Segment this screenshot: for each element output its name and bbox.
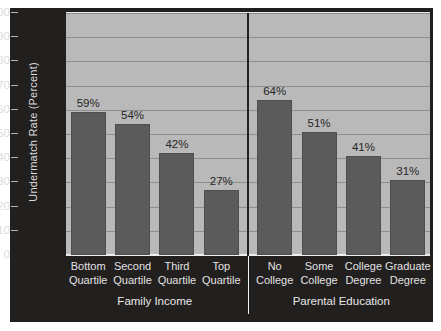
plot-area: 59%54%42%27%64%51%41%31%: [66, 12, 430, 256]
y-axis-tick-mark: [11, 36, 18, 37]
bar-value-label: 59%: [58, 97, 118, 109]
chart-panel: Undermatch Rate (Percent) 59%54%42%27%64…: [10, 8, 433, 322]
y-axis-tick-mark: [11, 157, 18, 158]
bar-value-label: 31%: [378, 165, 438, 177]
y-axis-tick-label: 30: [0, 175, 10, 187]
y-axis-tick-label: 0: [0, 248, 10, 260]
bar: [346, 156, 381, 255]
y-axis-tick-label: 80: [0, 54, 10, 66]
y-axis-tick-label: 90: [0, 30, 10, 42]
y-axis-tick-label: 70: [0, 79, 10, 91]
bar-value-label: 42%: [147, 138, 207, 150]
bar: [159, 153, 194, 255]
category-axis-area: BottomQuartileSecondQuartileThirdQuartil…: [66, 256, 430, 318]
bar-value-label: 64%: [245, 85, 305, 97]
y-axis-tick-mark: [11, 85, 18, 86]
group-title: Parental Education: [253, 295, 431, 307]
y-axis-tick-mark: [11, 133, 18, 134]
footer-group-divider: [248, 256, 249, 314]
y-axis-tick-mark: [11, 230, 18, 231]
bar: [302, 132, 337, 255]
bar: [257, 100, 292, 255]
bar-value-label: 54%: [103, 109, 163, 121]
y-axis-tick-label: 60: [0, 103, 10, 115]
category-label: GraduateDegree: [372, 260, 441, 287]
bar: [115, 124, 150, 255]
bar: [71, 112, 106, 255]
y-axis-tick-mark: [11, 12, 18, 13]
y-axis-tick-label: 50: [0, 127, 10, 139]
bar-value-label: 41%: [333, 141, 393, 153]
y-axis-tick-label: 20: [0, 200, 10, 212]
bar-value-label: 51%: [289, 117, 349, 129]
y-axis-tick-mark: [11, 60, 18, 61]
y-axis-tick-mark: [11, 206, 18, 207]
chart-figure: Undermatch Rate (Percent) 59%54%42%27%64…: [0, 0, 441, 331]
y-axis-tick-label: 100: [0, 6, 10, 18]
bar-value-label: 27%: [191, 175, 251, 187]
bar: [390, 180, 425, 255]
y-axis-tick-label: 40: [0, 151, 10, 163]
group-title: Family Income: [66, 295, 244, 307]
bar: [204, 190, 239, 255]
y-axis-tick-mark: [11, 109, 18, 110]
y-axis-title: Undermatch Rate (Percent): [27, 17, 39, 247]
y-axis-tick-label: 10: [0, 224, 10, 236]
group-divider: [247, 13, 249, 256]
y-axis-tick-mark: [11, 181, 18, 182]
